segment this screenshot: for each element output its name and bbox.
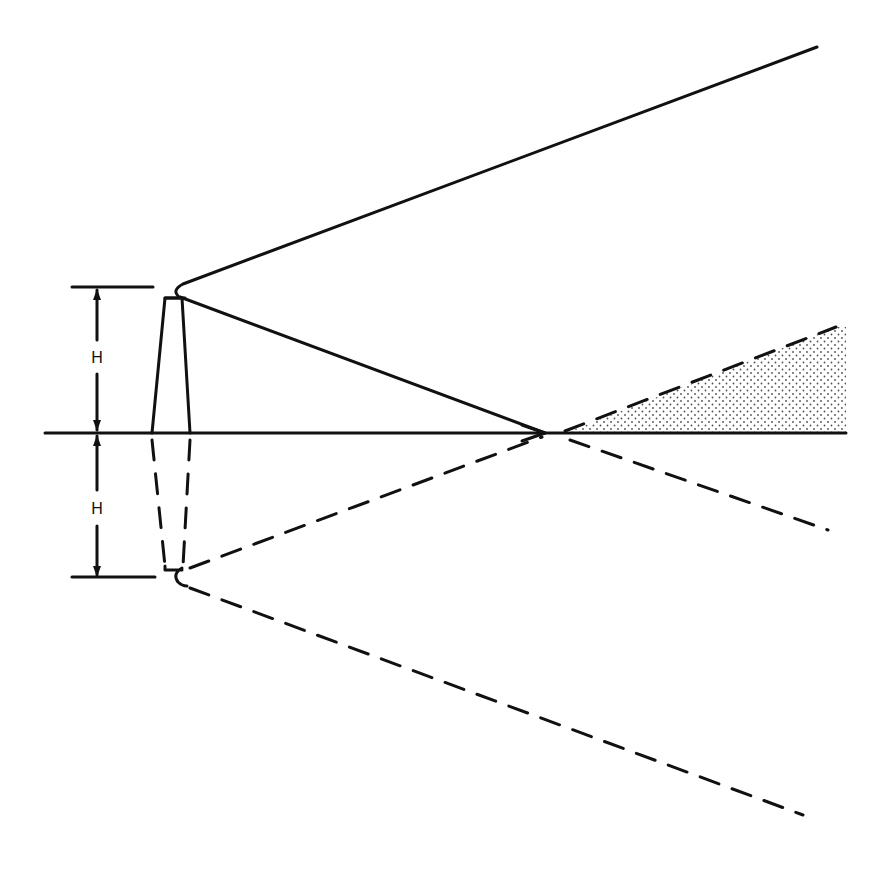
- antenna-tower: [152, 298, 190, 433]
- image-tower-left: [152, 440, 165, 566]
- shaded-reflection-region: [565, 327, 846, 433]
- image-direct-ray: [190, 588, 803, 815]
- dimension-upper-arrow-top: [93, 289, 101, 300]
- direct-ray: [176, 47, 817, 296]
- dimension-lower-arrow-bottom: [93, 566, 101, 577]
- dimension-lower-arrow-top: [93, 435, 101, 446]
- image-tower-right: [183, 440, 190, 566]
- lower-height-label: H: [91, 500, 103, 517]
- image-incident-ray: [190, 437, 542, 568]
- upper-height-label: H: [91, 349, 103, 366]
- incident-ray: [180, 297, 545, 433]
- transmitted-ray-continuation: [570, 440, 828, 530]
- image-antenna-bottom: [165, 566, 187, 586]
- antenna-ground-reflection-diagram: H H: [0, 0, 882, 870]
- dimension-upper-arrow-bottom: [93, 420, 101, 431]
